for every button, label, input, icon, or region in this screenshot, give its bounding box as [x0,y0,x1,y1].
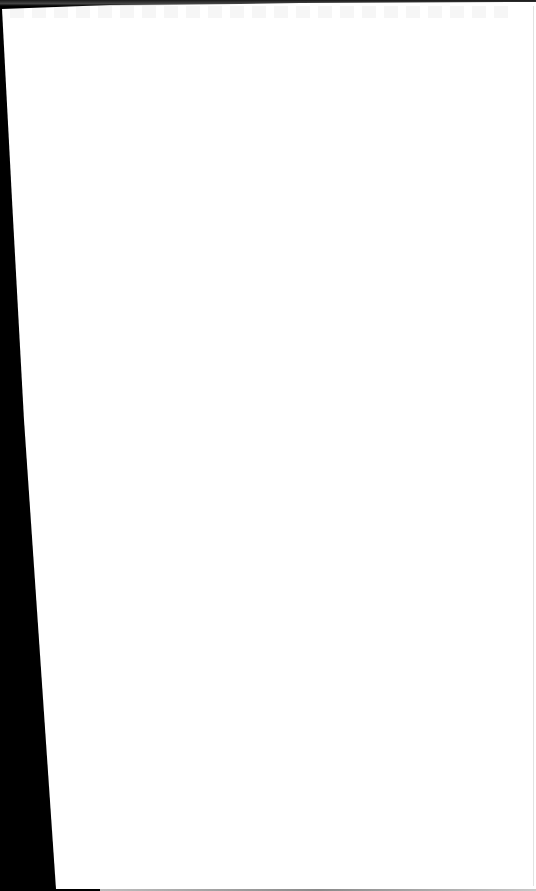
bleed-through-marks [10,6,510,18]
scan-canvas [0,0,536,891]
right-page-edge [533,6,534,886]
page-content [60,30,516,861]
blank-page [0,0,536,891]
